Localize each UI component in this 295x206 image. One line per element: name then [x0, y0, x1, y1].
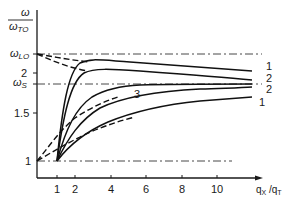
dashed-curve-lower-a: [37, 97, 118, 161]
y-tick-label-1-5: 1.5: [14, 107, 29, 119]
x-axis-arrow-icon: [255, 176, 263, 181]
chart-canvas: 1 2 2 1 3 ω ωTO ωLO 2 ωS 1.5 1 1 2 4 6 8…: [0, 0, 295, 206]
omega-lo-label: ωLO: [10, 47, 29, 61]
curve-1-lower: [57, 97, 252, 161]
x-tick-label: 1: [54, 183, 60, 195]
x-tick-label: 10: [211, 183, 223, 195]
x-axis-label: qX /qT: [256, 184, 282, 196]
curve-label-3: 3: [134, 88, 140, 100]
curve-1-upper: [57, 60, 252, 161]
curve-2-upper: [57, 69, 252, 161]
curve-label-1-upper: 1: [266, 60, 272, 72]
y-label-denominator: ωTO: [9, 20, 29, 34]
y-label-numerator: ω: [21, 6, 30, 18]
x-tick-label: 4: [108, 183, 114, 195]
curve-label-2-lower: 2: [266, 83, 272, 95]
y-tick-label-2: 2: [21, 67, 27, 79]
dispersion-chart: 1 2 2 1 3 ω ωTO ωLO 2 ωS 1.5 1 1 2 4 6 8…: [0, 0, 295, 206]
x-tick-label: 6: [143, 183, 149, 195]
dashed-curve-upper-1: [37, 54, 90, 62]
y-tick-label-1: 1: [25, 155, 31, 167]
dashed-curve-lower-b: [37, 117, 135, 161]
curve-2-lower: [57, 87, 252, 161]
x-tick-label: 2: [72, 183, 78, 195]
x-tick-label: 8: [179, 183, 185, 195]
curve-label-1-lower: 1: [259, 96, 265, 108]
curve-3: [57, 84, 252, 161]
